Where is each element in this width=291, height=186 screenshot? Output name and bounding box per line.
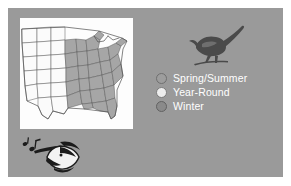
logo-graphic xyxy=(20,130,84,174)
legend-label-year-round: Year-Round xyxy=(173,87,230,98)
bird-silhouette-icon xyxy=(186,24,248,68)
range-map-graphic xyxy=(20,18,133,129)
legend-item-year-round[interactable]: Year-Round xyxy=(156,85,281,99)
legend-item-winter[interactable]: Winter xyxy=(156,99,281,113)
slide-panel: Spring/Summer Year-Round Winter xyxy=(8,8,283,177)
range-map-panel xyxy=(20,18,133,129)
legend-swatch-winter xyxy=(156,101,167,112)
legend-swatch-year-round xyxy=(156,87,167,98)
legend-label-winter: Winter xyxy=(173,101,204,112)
legend-swatch-spring-summer xyxy=(156,73,167,84)
legend-item-spring-summer[interactable]: Spring/Summer xyxy=(156,71,281,85)
eye-icon xyxy=(60,154,63,157)
map-legend: Spring/Summer Year-Round Winter xyxy=(156,71,281,113)
legend-label-spring-summer: Spring/Summer xyxy=(173,73,247,84)
bird-silhouette-graphic xyxy=(186,24,248,68)
singing-bird-head-logo xyxy=(20,130,84,174)
